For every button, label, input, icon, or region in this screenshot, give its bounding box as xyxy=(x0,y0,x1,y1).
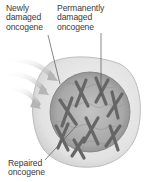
label-permanently-damaged-oncogene: Permanently damaged oncogene xyxy=(57,4,104,32)
label-repaired-oncogene: Repaired oncogene xyxy=(8,159,45,178)
label-newly-damaged-oncogene: Newly damaged oncogene xyxy=(6,4,43,32)
